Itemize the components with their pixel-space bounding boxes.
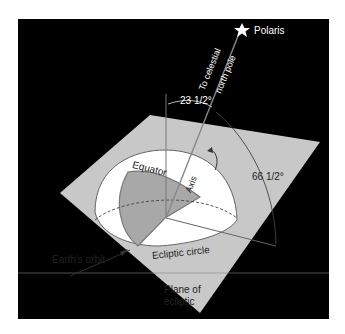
polaris-label: Polaris	[254, 26, 285, 36]
star-icon	[234, 23, 250, 37]
angle-large-label: 66 1/2°	[252, 172, 284, 182]
orbit-label: Earth's orbit	[52, 255, 105, 265]
plane-label-2: ecliptic	[164, 297, 195, 307]
plane-label-1: Plane of	[164, 285, 201, 295]
angle-small-label: 23 1/2°	[180, 96, 212, 106]
